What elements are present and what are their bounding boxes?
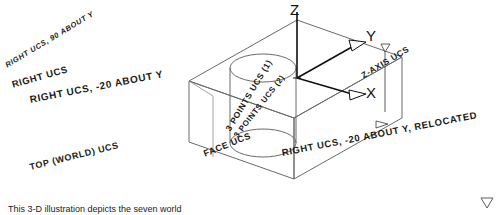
- y-axis-arrowhead: [349, 40, 366, 51]
- z-axis-label: Z: [290, 2, 299, 17]
- leader-z-axis-arrow: [381, 44, 390, 52]
- ucs-axis-triad: [297, 12, 359, 96]
- y-axis-label: Y: [366, 28, 376, 43]
- x-axis-label: X: [366, 85, 376, 100]
- x-axis-arrowhead: [349, 90, 366, 100]
- figure-caption: This 3-D illustration depicts the seven …: [8, 205, 182, 214]
- figure-canvas: Z Y X RIGHT UCS, 90 ABOUT Y RIGHT UCS RI…: [0, 0, 502, 215]
- leader-caption-arrow: [481, 198, 493, 208]
- y-axis-line: [297, 43, 359, 78]
- box-front-right-face: [294, 57, 402, 179]
